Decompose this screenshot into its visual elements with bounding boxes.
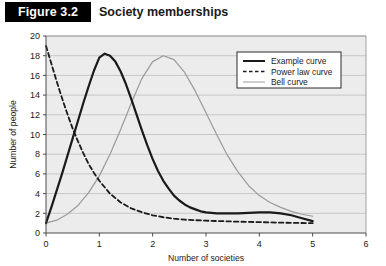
y-tick-label: 18: [30, 51, 40, 61]
legend-label-power-law-curve: Power law curve: [271, 67, 333, 77]
y-tick-label: 2: [35, 209, 40, 219]
y-axis-title: Number of people: [8, 100, 18, 169]
figure-number-badge: Figure 3.2: [5, 2, 91, 22]
x-axis-title: Number of societies: [168, 253, 244, 263]
y-tick-label: 6: [35, 169, 40, 179]
legend-label-example-curve: Example curve: [271, 56, 327, 66]
figure-root: Figure 3.2 Society memberships 024681012…: [0, 0, 386, 266]
y-tick-label: 10: [30, 130, 40, 140]
x-tick-label: 1: [97, 239, 102, 249]
x-tick-label: 0: [43, 239, 48, 249]
x-tick-label: 6: [363, 239, 368, 249]
figure-title: Society memberships: [99, 2, 228, 22]
y-tick-label: 4: [35, 189, 40, 199]
line-chart: 024681012141618200123456Number of societ…: [0, 26, 386, 266]
y-tick-label: 8: [35, 149, 40, 159]
figure-header: Figure 3.2 Society memberships: [0, 0, 386, 26]
legend-label-bell-curve: Bell curve: [271, 77, 308, 87]
y-tick-label: 20: [30, 31, 40, 41]
x-tick-label: 2: [150, 239, 155, 249]
chart-legend: Example curvePower law curveBell curve: [237, 52, 341, 88]
x-tick-label: 4: [257, 239, 262, 249]
y-tick-label: 16: [30, 71, 40, 81]
y-tick-label: 12: [30, 110, 40, 120]
chart-container: 024681012141618200123456Number of societ…: [0, 26, 386, 266]
x-tick-label: 3: [203, 239, 208, 249]
x-tick-label: 5: [310, 239, 315, 249]
y-tick-label: 0: [35, 228, 40, 238]
y-tick-label: 14: [30, 90, 40, 100]
